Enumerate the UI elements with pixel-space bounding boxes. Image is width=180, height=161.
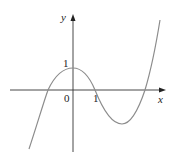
y-axis-label: y xyxy=(60,11,66,23)
origin-label: 0 xyxy=(64,92,70,104)
y-axis-arrow-icon xyxy=(71,14,76,21)
x-axis-label: x xyxy=(157,93,163,105)
x-tick-label-1: 1 xyxy=(93,92,99,104)
graph-figure: y x 1 0 1 xyxy=(0,0,180,161)
function-curve xyxy=(29,20,160,149)
x-axis-arrow-icon xyxy=(159,88,166,93)
y-tick-label-1: 1 xyxy=(63,57,69,69)
